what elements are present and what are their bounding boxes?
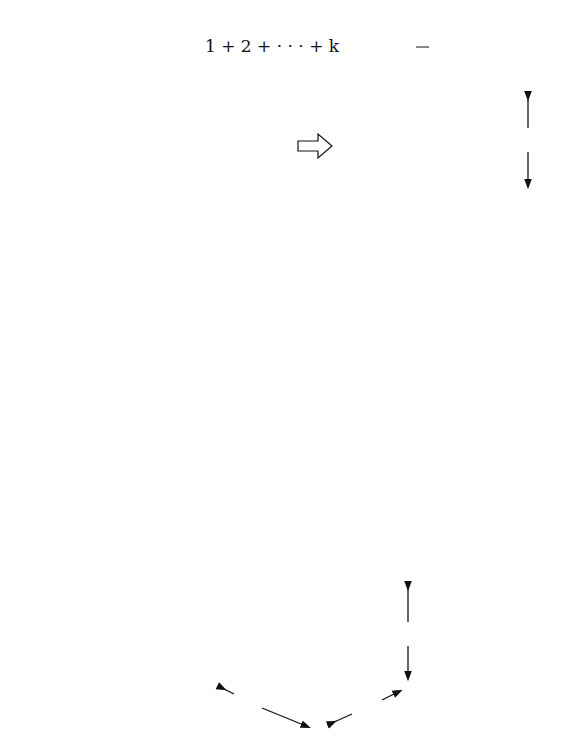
box-width-dimension xyxy=(222,688,306,726)
cube-diagram xyxy=(0,0,564,754)
hollow-right-arrow-icon xyxy=(298,134,332,158)
box-depth-dimension xyxy=(332,692,398,723)
